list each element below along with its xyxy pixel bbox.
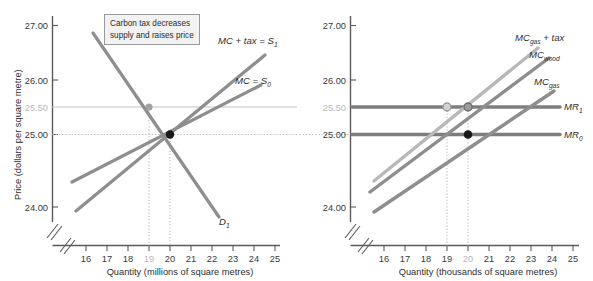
x-ticklabel-23-left: 23: [228, 254, 238, 264]
x-ticklabel-18-right: 18: [421, 254, 431, 264]
x-ticklabel-16-right: 16: [379, 254, 389, 264]
x-ticklabel-17-left: 17: [102, 254, 112, 264]
y-axis-title-left: Price (dollars per square metre): [13, 69, 23, 200]
curve-label-mc-gas-plus-tax: MCgas + tax: [515, 32, 565, 46]
curve-demand-d1: [93, 33, 219, 217]
marker-gas-plus-tax-output: [443, 103, 451, 111]
x-ticklabel-19-left: 19: [144, 254, 154, 264]
y-ticklabel-2600-right: 26.00: [323, 76, 346, 86]
x-ticklabel-20-left: 20: [165, 254, 175, 264]
y-axis-break-right: [345, 224, 356, 238]
curve-label-mc-wood: MCwood: [529, 49, 560, 62]
y-ticklabel-2400-left: 24.00: [25, 203, 48, 213]
figure-root: 27.00 26.00 25.50 25.00 24.00 16 17 18 1…: [0, 0, 593, 281]
x-ticklabel-25-right: 25: [568, 254, 578, 264]
x-ticklabel-23-right: 23: [526, 254, 536, 264]
x-ticklabel-18-left: 18: [123, 254, 133, 264]
y-ticklabel-2700-right: 27.00: [323, 21, 346, 31]
curve-mc-wood: [370, 58, 549, 192]
x-ticklabel-17-right: 17: [400, 254, 410, 264]
callout-left: Carbon tax decreases supply and raises p…: [104, 14, 200, 45]
x-ticklabel-22-left: 22: [207, 254, 217, 264]
x-ticklabel-21-left: 21: [186, 254, 196, 264]
x-ticklabel-25-left: 25: [270, 254, 280, 264]
y-ticklabel-2550-right: 25.50: [323, 103, 346, 113]
x-ticklabel-21-right: 21: [484, 254, 494, 264]
x-ticklabel-24-right: 24: [547, 254, 557, 264]
curve-label-mr0: MR0: [564, 129, 583, 142]
curve-label-mr1: MR1: [564, 101, 583, 114]
y-ticklabel-2700-left: 27.00: [25, 21, 48, 31]
chart-panel-left: 27.00 26.00 25.50 25.00 24.00 16 17 18 1…: [0, 0, 297, 281]
marker-tax-equilibrium-left: [145, 103, 152, 110]
x-ticklabel-22-right: 22: [505, 254, 515, 264]
y-axis-break-left: [47, 224, 58, 238]
marker-initial-gas-output: [464, 130, 473, 139]
chart-svg-right: 27.00 26.00 25.50 25.00 24.00 16 17 18 1…: [296, 0, 593, 281]
curve-label-s1: MC + tax = S1: [218, 35, 278, 48]
marker-equilibrium-left: [166, 130, 174, 138]
y-ticklabel-2500-right: 25.00: [323, 130, 346, 140]
x-axis-title-right: Quantity (thousands of square metres): [399, 267, 558, 277]
chart-panel-right: 27.00 26.00 25.50 25.00 24.00 16 17 18 1…: [296, 0, 593, 281]
x-axis-title-left: Quantity (millions of square metres): [107, 267, 254, 277]
curve-mc-gas-plus-tax: [374, 48, 538, 181]
marker-wood-output: [464, 103, 472, 111]
y-ticklabel-2500-left: 25.00: [25, 130, 48, 140]
x-ticklabel-16-left: 16: [81, 254, 91, 264]
y-axis-break2-right: [349, 226, 360, 240]
curve-label-d1: D1: [219, 216, 230, 229]
x-ticklabel-19-right: 19: [442, 254, 452, 264]
curve-label-mc-gas: MCgas: [534, 76, 560, 90]
x-ticklabel-20-right: 20: [463, 254, 473, 264]
x-ticklabel-24-left: 24: [249, 254, 259, 264]
y-ticklabel-2400-right: 24.00: [323, 203, 346, 213]
x-axis-break2-left: [64, 240, 75, 254]
curve-label-s0: MC = S0: [235, 75, 271, 88]
y-axis-break2-left: [51, 226, 62, 240]
y-ticklabel-2600-left: 26.00: [25, 76, 48, 86]
y-ticklabel-2550-left: 25.50: [25, 103, 48, 113]
x-axis-break2-right: [362, 240, 373, 254]
